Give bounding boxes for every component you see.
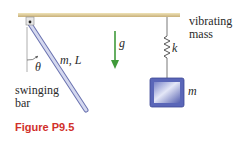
gravity-label: g [119, 36, 125, 50]
swinging-bar-label-line1: swinging [15, 83, 59, 97]
mass-label: m [188, 84, 197, 98]
pivot-bracket [26, 17, 34, 25]
gravity-arrow-icon [111, 31, 119, 69]
vibrating-mass-label-line1: vibrating [189, 14, 232, 28]
angle-label: θ [35, 60, 41, 74]
spring-constant-label: k [172, 41, 178, 55]
bar-params-label: m, L [60, 53, 82, 67]
spring-icon [164, 17, 170, 78]
vibrating-mass-label-line2: mass [189, 27, 213, 41]
figure-caption: Figure P9.5 [15, 121, 74, 133]
mass-block [150, 78, 184, 107]
physics-diagram: vibrating mass m, L θ g k m swinging bar… [0, 0, 241, 147]
swinging-bar-label-line2: bar [15, 96, 30, 110]
pivot-icon [29, 21, 32, 24]
ceiling-support [18, 13, 180, 17]
